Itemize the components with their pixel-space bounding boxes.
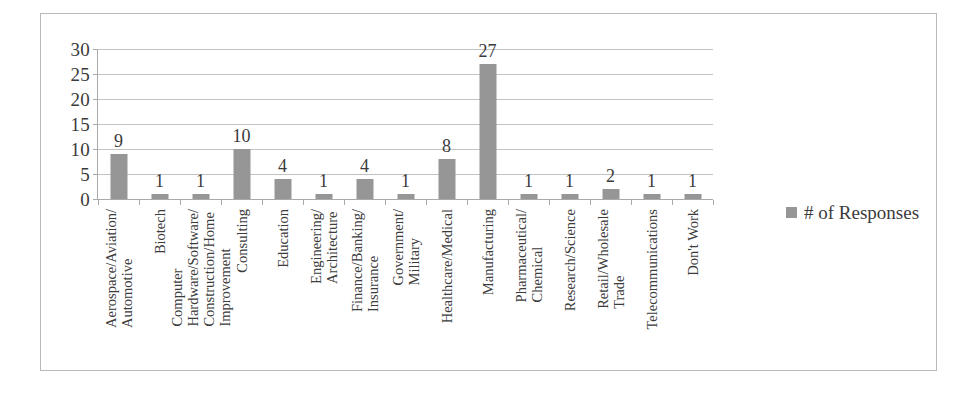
y-axis-tick-label: 30 — [71, 40, 90, 59]
x-axis-tick-label-line: Finance/Banking/ — [349, 209, 365, 312]
x-axis-tick-label-line: Research/Science — [562, 209, 578, 311]
legend-swatch-responses — [786, 207, 797, 218]
x-axis-tick-label-line: Architecture — [324, 209, 340, 284]
x-axis-tick-label: Engineering/Architecture — [324, 134, 356, 209]
x-axis-tick-label-line: Improvement — [217, 209, 233, 327]
x-axis-tick-label: Healthcare/Medical — [447, 95, 463, 209]
x-axis-tick-label-line: Telecommunications — [644, 209, 660, 330]
x-axis-tick-label: Education — [283, 150, 299, 209]
y-axis-tick-label: 10 — [71, 140, 90, 159]
x-axis-tick — [713, 200, 714, 205]
x-axis-tick-label: Biotech — [160, 164, 176, 209]
y-axis-tick-label: 0 — [80, 190, 90, 209]
x-axis-tick-label-line: Aerospace/Aviation/ — [103, 209, 119, 328]
x-axis-tick-label: Aerospace/Aviation/Automotive — [119, 90, 151, 209]
x-axis-tick-label: Telecommunications — [652, 88, 668, 209]
x-axis-tick-label-line: Government/ — [390, 209, 406, 286]
x-axis-tick-label: Consulting — [242, 145, 258, 209]
x-axis-tick-label-line: Don't Work — [685, 209, 701, 276]
y-axis-tick-label: 5 — [80, 165, 90, 184]
x-axis-tick-label-line: Military — [406, 209, 422, 286]
x-axis-tick — [590, 200, 591, 205]
x-axis-tick-label-line: Engineering/ — [308, 209, 324, 284]
x-axis-tick — [508, 200, 509, 205]
x-axis-tick-label-line: Retail/Wholesale — [595, 209, 611, 309]
bar-value-label: 27 — [479, 42, 497, 60]
x-axis-tick — [98, 200, 99, 205]
x-axis-tick-label: Pharmaceutical/Chemical — [529, 116, 561, 209]
y-axis-tick-label: 15 — [71, 115, 90, 134]
x-axis-tick-label-line: Education — [275, 209, 291, 268]
x-axis-tick — [672, 200, 673, 205]
x-axis-tick-label-line: Automotive — [119, 209, 135, 328]
x-axis-tick — [303, 200, 304, 205]
x-axis-tick-label: Government/Military — [406, 132, 438, 209]
legend-label-responses: # of Responses — [804, 203, 919, 222]
chart-frame: 051015202530 91110414182711211 Aerospace… — [40, 13, 937, 371]
plot-wrapper: 051015202530 91110414182711211 Aerospace… — [98, 49, 753, 199]
x-axis-tick-label-line: Hardware/Software/ — [185, 209, 201, 327]
x-axis-tick-label: Finance/Banking/Insurance — [365, 106, 397, 209]
x-axis-tick-label-line: Chemical — [529, 209, 545, 302]
x-axis-tick-label-line: Construction/Home — [201, 209, 217, 327]
x-axis-tick-label-line: Computer — [169, 209, 185, 327]
x-axis-tick-label-line: Manufacturing — [480, 209, 496, 295]
x-axis-tick-label: Retail/WholesaleTrade — [611, 109, 643, 209]
x-axis-tick — [180, 200, 181, 205]
x-axis-tick-label-line: Pharmaceutical/ — [513, 209, 529, 302]
x-axis-tick-label-line: Consulting — [234, 209, 250, 273]
x-axis-tick — [467, 200, 468, 205]
x-axis-tick-label: Don't Work — [693, 142, 709, 209]
x-axis-tick-label-line: Healthcare/Medical — [439, 209, 455, 323]
y-axis-tick-label: 25 — [71, 65, 90, 84]
x-axis-tick-label-line: Insurance — [365, 209, 381, 312]
y-axis-tick-label: 20 — [71, 90, 90, 109]
chart-legend: # of Responses — [786, 203, 919, 222]
x-axis-tick-label: Manufacturing — [488, 123, 504, 209]
x-axis-tick-label-line: Biotech — [152, 209, 168, 254]
x-axis-tick-label-line: Trade — [611, 209, 627, 309]
x-axis-tick-label: Research/Science — [570, 107, 586, 209]
